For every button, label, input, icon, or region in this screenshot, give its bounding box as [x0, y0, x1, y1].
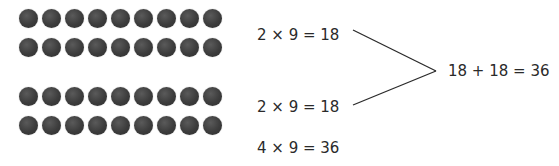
equation-sum: 18 + 18 = 36 [448, 62, 549, 80]
connector-line-top [353, 30, 436, 71]
equation-total: 4 × 9 = 36 [257, 139, 339, 157]
connector-line-bottom [353, 71, 436, 105]
equation-group-2: 2 × 9 = 18 [257, 98, 339, 116]
equation-group-1: 2 × 9 = 18 [257, 26, 339, 44]
